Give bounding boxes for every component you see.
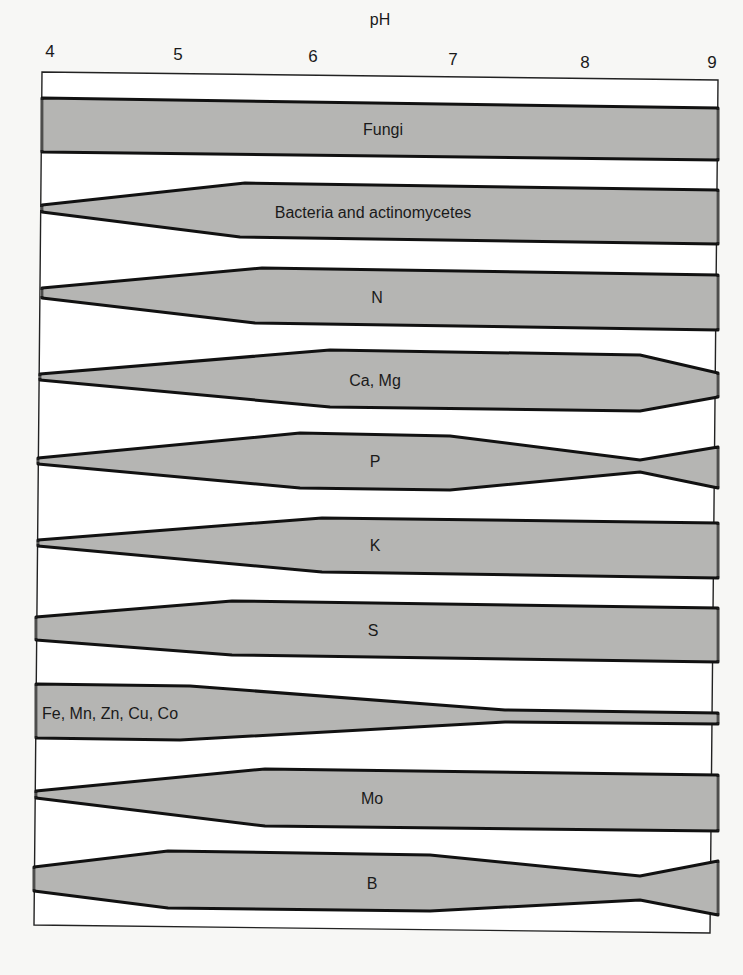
ph-axis-title: pH: [370, 11, 390, 29]
ph-tick: 8: [580, 53, 589, 73]
band-label-k: K: [370, 537, 381, 555]
band-label-b: B: [367, 875, 378, 893]
band-label-fungi: Fungi: [363, 121, 403, 139]
band-label-micronutrients: Fe, Mn, Zn, Cu, Co: [42, 705, 178, 723]
ph-tick: 5: [173, 45, 182, 65]
ph-availability-diagram: pH 4 5 6 7 8 9 Fungi Bacteria and actino…: [0, 0, 743, 975]
band-label-n: N: [371, 289, 383, 307]
band-label-ca-mg: Ca, Mg: [349, 372, 401, 390]
ph-tick: 7: [448, 50, 457, 70]
diagram-canvas: [0, 0, 743, 975]
band-label-mo: Mo: [361, 790, 383, 808]
band-label-s: S: [368, 622, 379, 640]
ph-tick: 6: [308, 47, 317, 67]
band-label-p: P: [370, 453, 381, 471]
ph-tick: 9: [707, 53, 716, 73]
ph-tick: 4: [45, 42, 54, 62]
band-label-bacteria: Bacteria and actinomycetes: [275, 204, 472, 222]
